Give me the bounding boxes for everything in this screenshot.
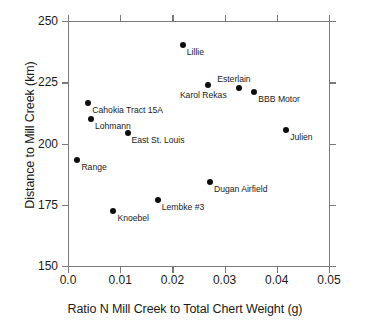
data-point-label: Julien [290,133,312,142]
scatter-chart-figure: Distance to Mill Creek (km) Ratio N Mill… [0,0,370,333]
data-point-label: Range [81,163,106,172]
axis-bottom-spine [68,266,330,267]
data-point[interactable] [74,157,80,163]
data-point[interactable] [251,89,257,95]
data-point[interactable] [85,100,91,106]
y-tick-mark [62,205,68,206]
data-point-label: Cahokia Tract 15A [92,106,163,115]
data-point-label: Esterlain [217,75,250,84]
data-point[interactable] [88,116,94,122]
x-tick-mark-top [68,15,69,21]
y-tick-mark-right [330,205,336,206]
data-point[interactable] [180,42,186,48]
y-tick-mark-right [330,144,336,145]
data-point-label: Lembke #3 [162,203,205,212]
data-point[interactable] [283,127,289,133]
plot-area: 250225200175150 0.00.010.020.030.040.05 … [68,21,330,267]
x-tick-mark-top [225,15,226,21]
x-tick-mark-top [277,15,278,21]
x-tick-label: 0.0 [45,273,91,287]
y-tick-mark-right [330,266,336,267]
data-point-label: BBB Motor [258,95,300,104]
data-point[interactable] [205,82,211,88]
x-tick-label: 0.04 [254,273,300,287]
y-tick-label: 150 [0,259,58,273]
y-axis-title: Distance to Mill Creek (km) [23,10,37,260]
y-tick-mark [62,144,68,145]
y-tick-mark [62,82,68,83]
data-point[interactable] [236,85,242,91]
x-tick-label: 0.05 [306,273,352,287]
data-point-label: Knoebel [117,214,149,223]
data-point[interactable] [110,208,116,214]
data-point[interactable] [155,197,161,203]
y-tick-mark-right [330,21,336,22]
data-point-label: Dugan Airfield [214,185,268,194]
data-point-label: Karol Rekas [180,91,227,100]
y-tick-mark-right [330,82,336,83]
x-tick-mark-top [329,15,330,21]
y-tick-label: 225 [0,75,58,89]
x-tick-mark-top [120,15,121,21]
x-tick-mark-top [172,15,173,21]
data-point-label: East St. Louis [132,136,185,145]
data-point-label: Lohmann [95,122,131,131]
y-tick-label: 175 [0,198,58,212]
x-tick-label: 0.03 [202,273,248,287]
x-tick-label: 0.01 [97,273,143,287]
axis-left-spine [68,21,69,267]
y-tick-label: 250 [0,14,58,28]
axis-top-spine [68,21,330,22]
data-point[interactable] [207,179,213,185]
data-point-label: Lillie [187,48,204,57]
x-axis-title: Ratio N Mill Creek to Total Chert Weight… [0,302,370,316]
x-tick-label: 0.02 [149,273,195,287]
y-tick-mark [62,21,68,22]
data-point[interactable] [125,130,131,136]
y-tick-label: 200 [0,137,58,151]
